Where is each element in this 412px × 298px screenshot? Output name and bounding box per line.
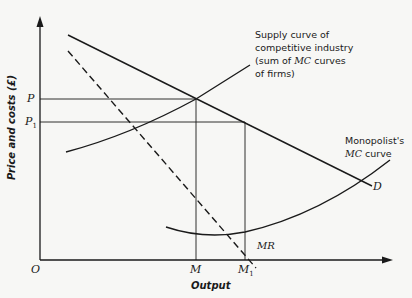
x-axis bbox=[40, 257, 393, 264]
x-axis-label: Output bbox=[191, 280, 230, 291]
monopolist-mc-label: Monopolist's MC curve bbox=[345, 134, 404, 160]
demand-label: D bbox=[373, 180, 382, 193]
x-tick-m1: M1 bbox=[238, 263, 254, 278]
monopolist-mc-curve bbox=[166, 160, 390, 235]
guide-lines bbox=[40, 99, 245, 260]
y-axis-label: Price and costs (£) bbox=[6, 75, 17, 180]
economics-diagram: Price and costs (£) O P P1 M M1 Output D… bbox=[0, 0, 412, 298]
y-tick-p: P bbox=[27, 92, 34, 105]
mr-label: MR bbox=[257, 240, 275, 251]
supply-curve-label: Supply curve of competitive industry (su… bbox=[255, 28, 353, 80]
origin-label: O bbox=[31, 263, 40, 276]
marginal-revenue-curve bbox=[68, 51, 256, 268]
y-axis bbox=[37, 16, 44, 260]
supply-curve bbox=[66, 65, 250, 152]
y-tick-p1: P1 bbox=[25, 115, 37, 130]
x-tick-m: M bbox=[190, 263, 201, 276]
